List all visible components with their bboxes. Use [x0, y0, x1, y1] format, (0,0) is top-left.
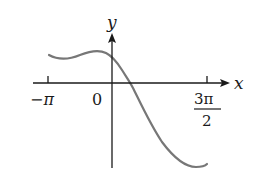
tick-label-zero: 0 — [92, 90, 102, 109]
x-axis-label: x — [234, 73, 244, 93]
tick-label-three-pi-numerator: 3π — [194, 90, 214, 108]
y-axis-label: y — [106, 12, 117, 32]
function-curve — [49, 51, 207, 167]
tick-label-three-pi-denominator: 2 — [202, 112, 212, 130]
chart-canvas: y x −π 0 3π 2 — [0, 0, 253, 176]
tick-label-neg-pi: −π — [30, 90, 54, 109]
